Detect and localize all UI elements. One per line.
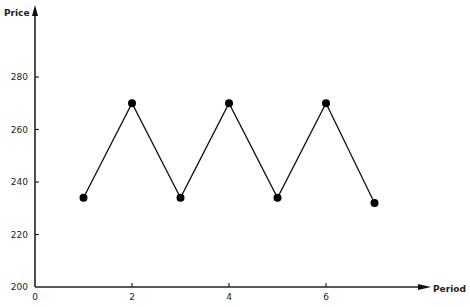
y-tick-label: 240 bbox=[11, 177, 28, 187]
data-point bbox=[371, 199, 379, 207]
data-point bbox=[322, 99, 330, 107]
data-point bbox=[80, 194, 88, 202]
y-tick-label: 220 bbox=[11, 230, 28, 240]
y-tick-label: 260 bbox=[11, 125, 28, 135]
x-tick-label: 2 bbox=[129, 292, 135, 302]
data-point bbox=[177, 194, 185, 202]
x-tick-label: 6 bbox=[323, 292, 329, 302]
data-point bbox=[225, 99, 233, 107]
data-point bbox=[274, 194, 282, 202]
data-point bbox=[128, 99, 136, 107]
y-tick-label: 200 bbox=[11, 282, 28, 292]
y-axis-label: Price bbox=[4, 8, 30, 18]
axes bbox=[32, 5, 431, 290]
y-tick-label: 280 bbox=[11, 72, 28, 82]
x-axis-arrow-icon bbox=[418, 284, 431, 290]
x-tick-label: 0 bbox=[32, 292, 38, 302]
price-period-chart: 2002202402602800246 Price Period bbox=[0, 0, 470, 307]
series-line bbox=[84, 103, 375, 203]
x-tick-label: 4 bbox=[226, 292, 232, 302]
x-axis-label: Period bbox=[433, 284, 466, 294]
ticks: 2002202402602800246 bbox=[11, 72, 329, 302]
y-axis-arrow-icon bbox=[32, 5, 38, 16]
data-series bbox=[80, 99, 379, 207]
